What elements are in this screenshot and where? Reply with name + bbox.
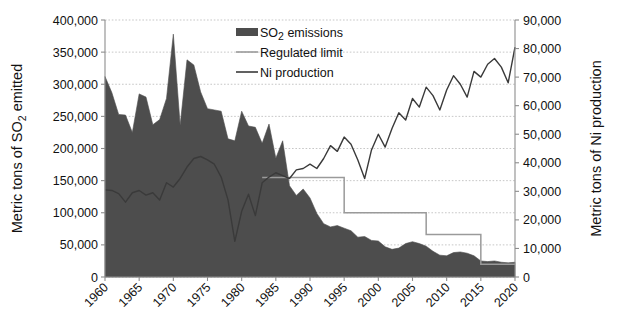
legend-swatch-so2: [236, 28, 258, 36]
legend-label: SO2 emissions: [260, 26, 343, 43]
y-axis-left-tick-label: 400,000: [53, 14, 98, 28]
y-axis-left-tick-label: 300,000: [53, 78, 98, 92]
x-axis-tick-label: 1985: [252, 280, 282, 310]
x-axis-ticks: 1960196519701975198019851990199520002005…: [82, 277, 522, 310]
x-axis-tick-label: 1970: [150, 280, 180, 310]
y-axis-left-tick-label: 200,000: [53, 142, 98, 156]
y-axis-left-title-text: Metric tons of SO2 emitted: [9, 64, 28, 233]
x-axis-tick-label: 2000: [355, 280, 385, 310]
y-axis-left-title: Metric tons of SO2 emitted: [9, 64, 28, 233]
y-axis-left-tick-label: 50,000: [60, 238, 98, 252]
y-axis-right-tick-label: 20,000: [523, 213, 561, 227]
y-axis-right-tick-label: 0: [523, 271, 530, 285]
x-axis-tick-label: 2005: [389, 280, 419, 310]
y-axis-left-tick-label: 250,000: [53, 110, 98, 124]
y-axis-right-tick-label: 60,000: [523, 99, 561, 113]
x-axis-tick-label: 1995: [321, 280, 351, 310]
y-axis-right-title: Metric tons of Ni production: [588, 60, 604, 237]
y-axis-right-tick-label: 10,000: [523, 242, 561, 256]
y-axis-right-tick-label: 50,000: [523, 128, 561, 142]
x-axis-tick-label: 2020: [492, 280, 522, 310]
x-axis-tick-label: 1990: [287, 280, 317, 310]
y-axis-right-title-text: Metric tons of Ni production: [588, 60, 604, 237]
x-axis-tick-label: 1960: [82, 280, 112, 310]
x-axis-tick-label: 2010: [423, 280, 453, 310]
legend-label: Regulated limit: [260, 46, 343, 60]
y-axis-right-tick-label: 70,000: [523, 71, 561, 85]
y-axis-left-tick-label: 0: [91, 271, 98, 285]
y-axis-left-tick-label: 350,000: [53, 46, 98, 60]
legend-label: Ni production: [260, 66, 334, 80]
y-axis-right-ticks: 010,00020,00030,00040,00050,00060,00070,…: [515, 14, 561, 285]
chart-container: 050,000100,000150,000200,000250,000300,0…: [0, 0, 618, 328]
chart-legend: SO2 emissionsRegulated limitNi productio…: [236, 26, 343, 80]
y-axis-left-ticks: 050,000100,000150,000200,000250,000300,0…: [53, 14, 105, 285]
y-axis-right-tick-label: 30,000: [523, 185, 561, 199]
x-axis-tick-label: 1965: [116, 280, 146, 310]
y-axis-right-tick-label: 40,000: [523, 156, 561, 170]
x-axis-tick-label: 1975: [184, 280, 214, 310]
y-axis-left-tick-label: 100,000: [53, 206, 98, 220]
y-axis-right-tick-label: 80,000: [523, 42, 561, 56]
y-axis-right-tick-label: 90,000: [523, 14, 561, 28]
x-axis-tick-label: 1980: [218, 280, 248, 310]
so2-ni-chart: 050,000100,000150,000200,000250,000300,0…: [0, 0, 618, 328]
x-axis-tick-label: 2015: [457, 280, 487, 310]
y-axis-left-tick-label: 150,000: [53, 174, 98, 188]
